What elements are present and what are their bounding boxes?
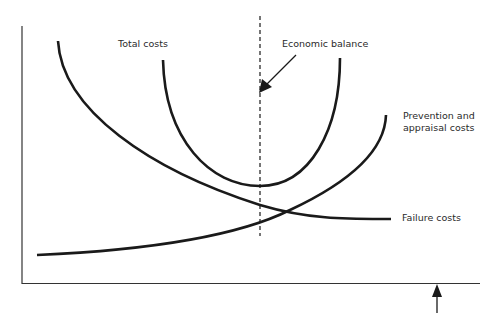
failure-costs-label: Failure costs [402,212,461,224]
prevention-label-line2: appraisal costs [403,122,474,134]
cost-of-quality-diagram [0,0,501,313]
total-costs-label: Total costs [118,38,168,50]
prevention-label-line1: Prevention and [403,110,475,122]
prevention-appraisal-curve [37,115,386,255]
economic-balance-arrow [266,55,296,85]
x-axis-arrowhead [432,284,442,297]
economic-balance-label: Economic balance [282,38,368,50]
total-costs-curve [163,58,340,186]
